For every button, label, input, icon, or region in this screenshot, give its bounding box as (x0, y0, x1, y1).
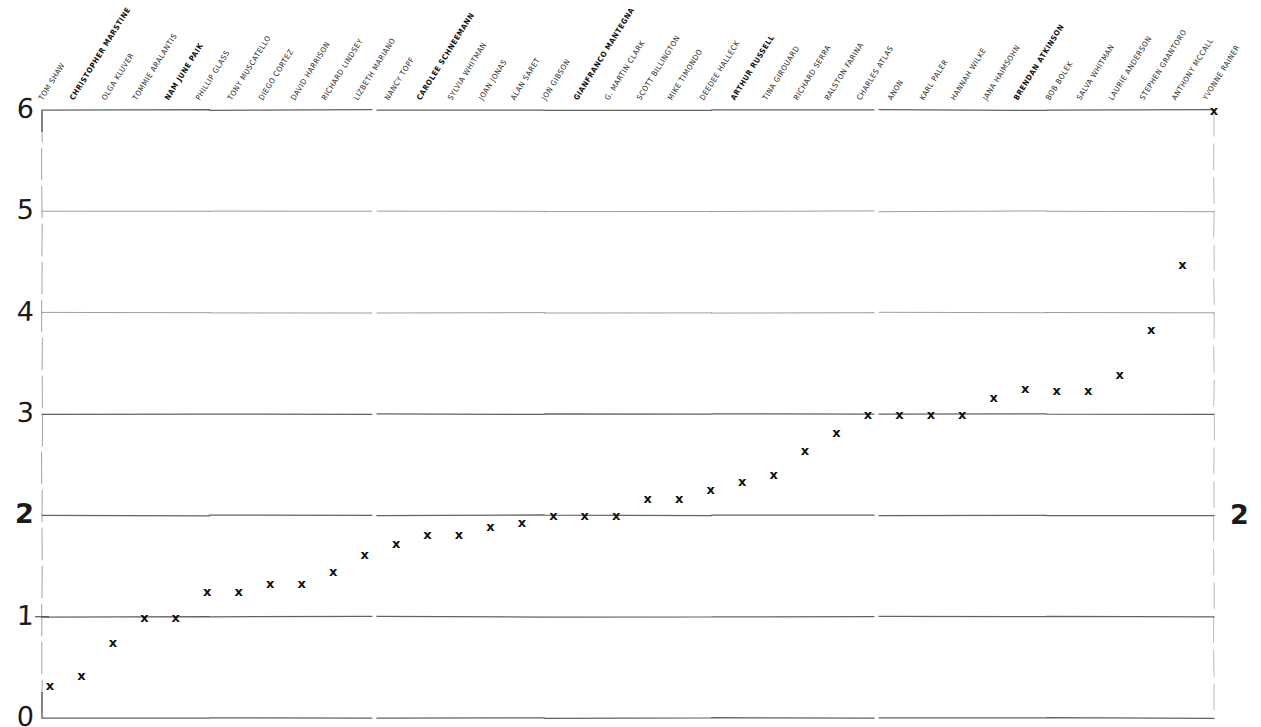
y-axis-tick-4: 4 (0, 297, 34, 325)
data-point-marker: x (77, 669, 85, 682)
data-point-marker: x (329, 565, 337, 578)
data-point-marker: x (864, 408, 872, 421)
data-point-marker: x (706, 483, 714, 496)
data-point-marker: x (140, 610, 148, 623)
y-axis-tick-6: 6 (0, 95, 34, 123)
data-point-marker: x (109, 636, 117, 649)
data-point-marker: x (1147, 322, 1155, 335)
data-point-marker: x (423, 527, 431, 540)
data-point-marker: x (486, 519, 494, 532)
scatter-chart: 0123456 2 TOM SHAWCHRISTOPHER MARSTINEOL… (0, 0, 1261, 727)
data-point-marker: x (392, 536, 400, 549)
data-point-marker: x (769, 467, 777, 480)
data-point-marker: x (235, 585, 243, 598)
data-point-marker: x (518, 516, 526, 529)
y-axis-tick-1: 1 (0, 601, 34, 629)
y-axis-tick-3: 3 (0, 399, 34, 427)
data-point-marker: x (1052, 383, 1060, 396)
data-point-marker: x (958, 408, 966, 421)
data-point-marker: x (832, 426, 840, 439)
data-point-marker: x (643, 492, 651, 505)
data-point-marker: x (801, 443, 809, 456)
y-axis-right-tick-2: 2 (1230, 501, 1249, 528)
data-point-marker: x (927, 408, 935, 421)
data-point-marker: x (549, 509, 557, 522)
data-point-marker: x (46, 678, 54, 691)
data-point-marker: x (738, 474, 746, 487)
data-point-marker: x (990, 390, 998, 403)
data-point-marker: x (581, 509, 589, 522)
data-point-marker: x (266, 577, 274, 590)
data-point-marker: x (612, 509, 620, 522)
data-point-marker: x (1210, 104, 1218, 117)
y-axis-tick-5: 5 (0, 196, 34, 224)
y-axis-tick-2: 2 (0, 500, 34, 527)
data-point-marker: x (1115, 367, 1123, 380)
chart-canvas (0, 0, 1261, 727)
data-point-marker: x (203, 585, 211, 598)
data-point-marker: x (360, 547, 368, 560)
data-point-marker: x (455, 527, 463, 540)
data-point-marker: x (297, 577, 305, 590)
data-point-marker: x (675, 492, 683, 505)
data-point-marker: x (1084, 383, 1092, 396)
data-point-marker: x (172, 610, 180, 623)
data-point-marker: x (1178, 258, 1186, 271)
y-axis-tick-0: 0 (0, 703, 34, 727)
data-point-marker: x (895, 408, 903, 421)
data-point-marker: x (1021, 381, 1029, 394)
